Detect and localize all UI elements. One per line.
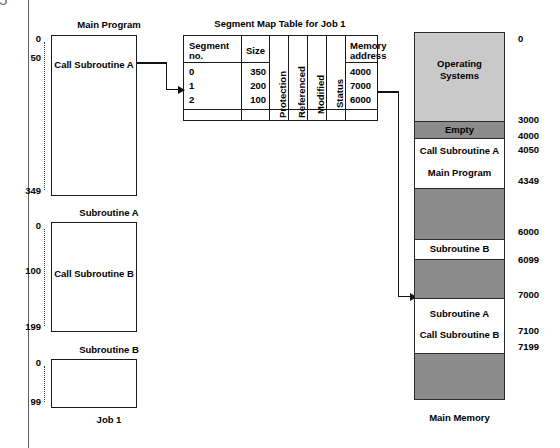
cell-memory-address-1: 7000 <box>350 80 371 91</box>
memory-block-main-program-line2: Main Program <box>415 167 504 179</box>
memory-address-3000: 3000 <box>518 114 539 125</box>
subroutine-b-scale-line <box>44 366 45 402</box>
memory-block-subroutine-a: Subroutine A Call Subroutine B <box>415 299 504 353</box>
main-memory-label: Main Memory <box>414 412 505 423</box>
main-program-mark-label: 50 <box>18 52 41 63</box>
memory-address-4349: 4349 <box>518 175 539 186</box>
memory-address-4000: 4000 <box>518 130 539 141</box>
main-program-box: Call Subroutine A <box>51 35 137 196</box>
memory-block-subroutine-a-line1: Subroutine A <box>415 308 504 320</box>
subroutine-a-body: Call Subroutine B <box>52 268 136 279</box>
memory-block-os-line2: Systems <box>415 70 504 82</box>
memory-block-main-program: Call Subroutine A Main Program <box>415 139 504 188</box>
cell-segment-no-0: 0 <box>189 66 194 77</box>
memory-address-7000: 7000 <box>518 289 539 300</box>
cell-size-1: 200 <box>244 80 266 91</box>
memory-address-7100: 7100 <box>518 325 539 336</box>
subroutine-a-title: Subroutine A <box>49 207 169 218</box>
cell-memory-address-2: 6000 <box>350 94 371 105</box>
memory-address-6000: 6000 <box>518 226 539 237</box>
table-header-divider-left <box>184 62 269 63</box>
cell-segment-no-1: 1 <box>189 80 194 91</box>
memory-block-free-2 <box>415 260 504 298</box>
connector1-segment-vertical <box>166 62 168 90</box>
main-program-start-label: 0 <box>22 33 41 44</box>
connector2-segment-vertical <box>398 91 400 297</box>
page-number: 5 <box>0 0 7 8</box>
main-program-body: Call Subroutine A <box>52 59 136 70</box>
cell-size-0: 350 <box>244 66 266 77</box>
header-protection: Protection <box>277 71 288 118</box>
subroutine-a-end-label: 199 <box>14 321 41 332</box>
table-col-divider-4 <box>307 36 308 120</box>
memory-address-4050: 4050 <box>518 144 539 155</box>
memory-address-7199: 7199 <box>518 341 539 352</box>
memory-block-main-program-line1: Call Subroutine A <box>415 145 504 157</box>
table-header-divider-right <box>345 62 377 63</box>
main-memory-bar: Operating Systems Empty Call Subroutine … <box>414 32 505 400</box>
table-col-divider-3 <box>288 36 289 120</box>
connector1-segment-horizontal-1 <box>137 62 167 64</box>
header-status: Status <box>334 79 345 108</box>
cell-memory-address-0: 4000 <box>350 66 371 77</box>
memory-block-empty-label: Empty <box>415 124 504 136</box>
subroutine-b-start-label: 0 <box>22 357 41 368</box>
subroutine-b-end-label: 99 <box>18 396 41 407</box>
memory-block-subroutine-b-label: Subroutine B <box>415 243 504 255</box>
main-program-title: Main Program <box>49 19 169 30</box>
subroutine-a-mark-label: 100 <box>14 265 41 276</box>
header-modified: Modified <box>315 75 326 114</box>
memory-block-os-line1: Operating <box>415 58 504 70</box>
subroutine-b-title: Subroutine B <box>49 344 169 355</box>
memory-address-6099: 6099 <box>518 254 539 265</box>
job-label: Job 1 <box>49 414 169 425</box>
cell-segment-no-2: 2 <box>189 94 194 105</box>
main-program-end-label: 349 <box>14 185 41 196</box>
subroutine-b-box <box>51 359 137 408</box>
cell-size-2: 100 <box>244 94 266 105</box>
table-col-divider-6 <box>345 36 346 120</box>
segment-map-table-title: Segment Map Table for Job 1 <box>180 18 380 29</box>
subroutine-a-scale-line <box>44 229 45 326</box>
memory-block-subroutine-b: Subroutine B <box>415 240 504 259</box>
memory-block-free-1 <box>415 189 504 239</box>
connector1-arrowhead <box>178 86 185 94</box>
memory-block-empty: Empty <box>415 122 504 138</box>
memory-address-0: 0 <box>518 33 523 44</box>
header-memory-address-line2: address <box>350 51 386 62</box>
memory-block-subroutine-a-line2: Call Subroutine B <box>415 329 504 341</box>
memory-block-free-3 <box>415 354 504 399</box>
segmentation-diagram: 5 Main Program Call Subroutine A 0 50 34… <box>0 0 560 448</box>
main-program-scale-line <box>44 42 45 190</box>
subroutine-a-box: Call Subroutine B <box>51 222 137 332</box>
memory-block-operating-systems: Operating Systems <box>415 33 504 121</box>
table-col-divider-5 <box>326 36 327 120</box>
segment-map-table: Segment no. Size Memory address Protecti… <box>183 35 378 121</box>
subroutine-a-start-label: 0 <box>22 220 41 231</box>
table-col-divider-2 <box>269 36 270 120</box>
header-size: Size <box>246 46 265 57</box>
table-col-divider-1 <box>241 36 242 120</box>
connector2-segment-horizontal-1 <box>378 91 399 93</box>
header-segment-no-line2: no. <box>189 51 203 62</box>
header-referenced: Referenced <box>296 66 307 118</box>
